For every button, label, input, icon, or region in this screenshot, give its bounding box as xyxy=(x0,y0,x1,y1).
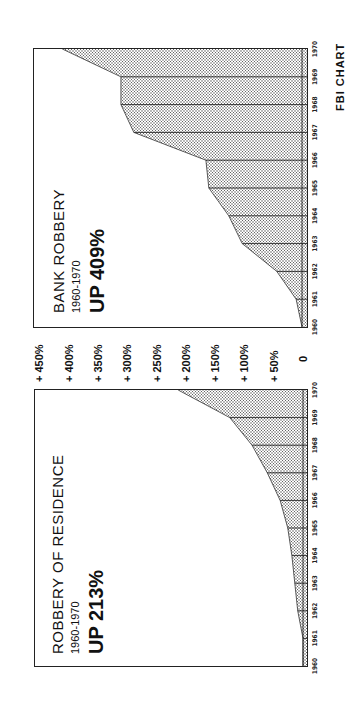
chart-page: ROBBERY OF RESIDENCE 1960-1970 UP 213% 1… xyxy=(0,0,364,718)
residence-title: ROBBERY OF RESIDENCE xyxy=(49,455,66,655)
year-label: 1969 xyxy=(311,409,319,425)
y-tick-label: + 150% xyxy=(209,344,221,382)
y-tick-label: + 400% xyxy=(63,344,75,382)
year-label: 1966 xyxy=(311,152,319,168)
year-label: 1970 xyxy=(311,41,319,57)
year-label: 1968 xyxy=(311,437,319,453)
y-tick-label: + 50% xyxy=(268,351,280,383)
y-axis-labels: + 450%+ 400%+ 350%+ 300%+ 250%+ 200%+ 15… xyxy=(0,332,364,384)
year-label: 1963 xyxy=(311,575,319,591)
year-label: 1961 xyxy=(311,630,319,646)
year-label: 1960 xyxy=(311,658,319,674)
year-label: 1964 xyxy=(311,208,319,224)
y-tick-label: + 350% xyxy=(92,344,104,382)
year-label: 1962 xyxy=(311,263,319,279)
year-label: 1966 xyxy=(311,492,319,508)
residence-subtitle: 1960-1970 xyxy=(69,601,81,654)
year-label: 1969 xyxy=(311,69,319,85)
year-label: 1967 xyxy=(311,124,319,140)
bank-subtitle: 1960-1970 xyxy=(70,260,82,313)
year-label: 1961 xyxy=(311,291,319,307)
bank-headline: UP 409% xyxy=(86,229,109,313)
residence-robbery-panel: ROBBERY OF RESIDENCE 1960-1970 UP 213% 1… xyxy=(34,389,308,667)
bank-title: BANK ROBBERY xyxy=(50,189,67,313)
source-credit: FBI CHART xyxy=(334,43,346,111)
year-label: 1962 xyxy=(311,603,319,619)
year-label: 1963 xyxy=(311,235,319,251)
y-tick-label: + 300% xyxy=(121,344,133,382)
year-label: 1967 xyxy=(311,465,319,481)
y-tick-label: + 250% xyxy=(151,344,163,382)
year-label: 1965 xyxy=(311,180,319,196)
year-label: 1968 xyxy=(311,96,319,112)
residence-headline: UP 213% xyxy=(85,570,108,654)
y-tick-label: 0 xyxy=(297,356,309,362)
y-tick-label: + 450% xyxy=(33,344,45,382)
y-tick-label: + 200% xyxy=(180,344,192,382)
year-label: 1965 xyxy=(311,520,319,536)
y-tick-label: + 100% xyxy=(238,344,250,382)
bank-robbery-panel: BANK ROBBERY 1960-1970 UP 409% 196019611… xyxy=(33,48,308,328)
year-label: 1964 xyxy=(311,547,319,563)
year-label: 1970 xyxy=(311,382,319,398)
